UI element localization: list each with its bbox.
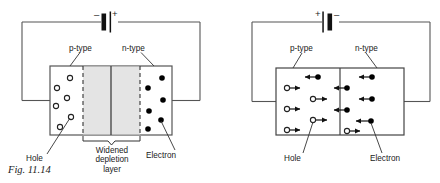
left-label-electron: Electron	[146, 151, 176, 160]
left-battery-minus-sign: –	[94, 9, 99, 20]
left-battery-symbol	[102, 12, 112, 33]
right-device-body	[276, 68, 404, 135]
right-label-p-type: p-type	[290, 44, 313, 53]
left-label-n-type: n-type	[122, 44, 145, 53]
left-battery-plus-sign: +	[112, 8, 118, 19]
figure-caption: Fig. 11.14	[8, 164, 51, 175]
right-battery-plus-sign: +	[315, 8, 321, 19]
depletion-line-1: Widened	[96, 146, 128, 155]
right-label-electron: Electron	[370, 154, 400, 163]
depletion-line-3: layer	[103, 165, 121, 174]
right-label-hole: Hole	[284, 154, 301, 163]
figure-pn-junction-biasing: – + p-type n-type Hole Widened depletion…	[0, 0, 440, 183]
left-label-hole: Hole	[26, 154, 43, 163]
left-depletion-brace	[83, 136, 140, 145]
depletion-line-2: depletion	[95, 155, 128, 164]
left-label-depletion-layer: Widened depletion layer	[85, 146, 139, 174]
right-label-n-type: n-type	[355, 44, 378, 53]
right-battery-symbol	[322, 12, 332, 33]
left-label-p-type: p-type	[69, 44, 92, 53]
right-battery-minus-sign: –	[334, 9, 339, 20]
